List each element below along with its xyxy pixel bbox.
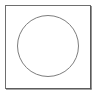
figure-canvas — [0, 0, 98, 95]
circle-in-square-figure — [0, 0, 98, 95]
canvas-background — [0, 0, 98, 95]
